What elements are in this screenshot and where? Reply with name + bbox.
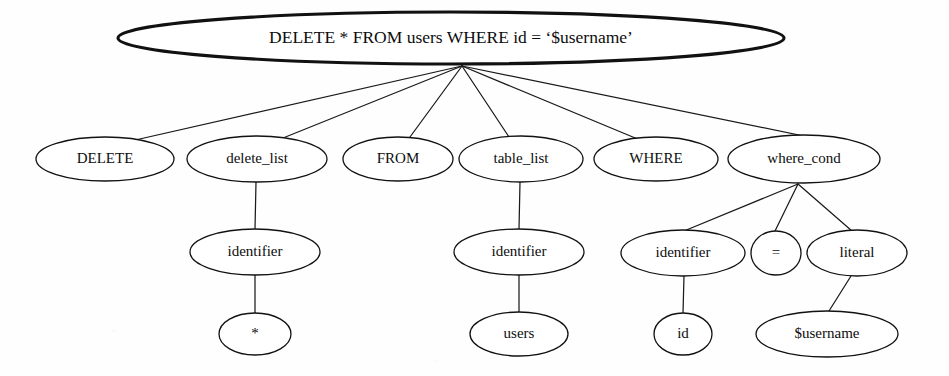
tree-edge-literal-to-username xyxy=(829,276,851,311)
tree-node-delete_list[interactable]: delete_list xyxy=(187,136,327,182)
edge-layer xyxy=(122,66,852,313)
tree-edge-where_cond-to-literal xyxy=(798,184,852,231)
tree-node-delete_kw[interactable]: DELETE xyxy=(36,137,174,181)
tree-node-root[interactable]: DELETE * FROM users WHERE id = ‘$usernam… xyxy=(118,12,784,64)
tree-node-ident_1[interactable]: identifier xyxy=(190,229,320,275)
tree-node-from_kw[interactable]: FROM xyxy=(343,137,453,181)
tree-edge-root-to-delete_kw xyxy=(122,66,462,143)
node-label-delete_kw: DELETE xyxy=(77,150,134,166)
node-label-where_kw: WHERE xyxy=(629,150,682,166)
node-label-ident_3: identifier xyxy=(656,244,711,260)
tree-node-where_kw[interactable]: WHERE xyxy=(594,137,718,181)
tree-node-literal[interactable]: literal xyxy=(807,230,907,276)
node-label-id_leaf: id xyxy=(677,325,689,341)
tree-node-users[interactable]: users xyxy=(470,312,568,356)
tree-edge-delete_list-to-ident_1 xyxy=(255,182,256,229)
tree-edge-root-to-table_list xyxy=(462,66,509,137)
tree-node-table_list[interactable]: table_list xyxy=(459,136,583,182)
node-label-star: * xyxy=(251,325,259,341)
node-label-from_kw: FROM xyxy=(377,150,420,166)
node-label-where_cond: where_cond xyxy=(767,150,841,166)
tree-edge-where_cond-to-eq_op xyxy=(775,184,798,231)
tree-node-ident_2[interactable]: identifier xyxy=(454,229,584,275)
node-label-root: DELETE * FROM users WHERE id = ‘$usernam… xyxy=(269,27,633,47)
node-label-literal: literal xyxy=(840,244,875,260)
tree-node-id_leaf[interactable]: id xyxy=(654,313,712,355)
node-layer: DELETE * FROM users WHERE id = ‘$usernam… xyxy=(36,12,907,357)
node-label-delete_list: delete_list xyxy=(226,150,288,166)
tree-svg-canvas: DELETE * FROM users WHERE id = ‘$usernam… xyxy=(0,0,949,376)
node-label-ident_1: identifier xyxy=(228,243,283,259)
tree-node-username[interactable]: $username xyxy=(756,311,898,357)
tree-node-where_cond[interactable]: where_cond xyxy=(728,135,880,183)
tree-node-star[interactable]: * xyxy=(219,313,291,355)
tree-node-eq_op[interactable]: = xyxy=(751,231,801,275)
tree-node-ident_3[interactable]: identifier xyxy=(621,230,745,276)
tree-edge-where_cond-to-ident_3 xyxy=(684,184,798,231)
node-label-table_list: table_list xyxy=(494,150,550,166)
tree-edge-table_list-to-ident_2 xyxy=(519,182,520,229)
tree-edge-ident_3-to-id_leaf xyxy=(683,276,684,313)
node-label-username: $username xyxy=(795,325,860,341)
tree-edge-root-to-where_cond xyxy=(462,66,828,141)
node-label-eq_op: = xyxy=(772,244,780,260)
parse-tree-diagram: DELETE * FROM users WHERE id = ‘$usernam… xyxy=(0,0,949,376)
tree-edge-root-to-where_kw xyxy=(462,66,640,140)
node-label-users: users xyxy=(504,325,535,341)
node-label-ident_2: identifier xyxy=(492,243,547,259)
